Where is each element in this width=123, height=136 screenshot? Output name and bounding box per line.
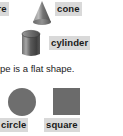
- label-square: square: [44, 118, 80, 132]
- label-circle: circle: [0, 118, 28, 132]
- square-shape-icon: [53, 88, 80, 115]
- label-cone: cone: [55, 2, 82, 16]
- label-sphere: ere: [0, 2, 9, 16]
- label-cylinder: cylinder: [49, 36, 90, 50]
- flat-shape-sentence: pe is a flat shape.: [0, 62, 74, 75]
- worksheet-page: ere cone: [0, 0, 123, 136]
- cone-shape-icon: [31, 0, 53, 26]
- cylinder-shape-icon: [21, 29, 41, 59]
- circle-shape-icon: [8, 88, 36, 116]
